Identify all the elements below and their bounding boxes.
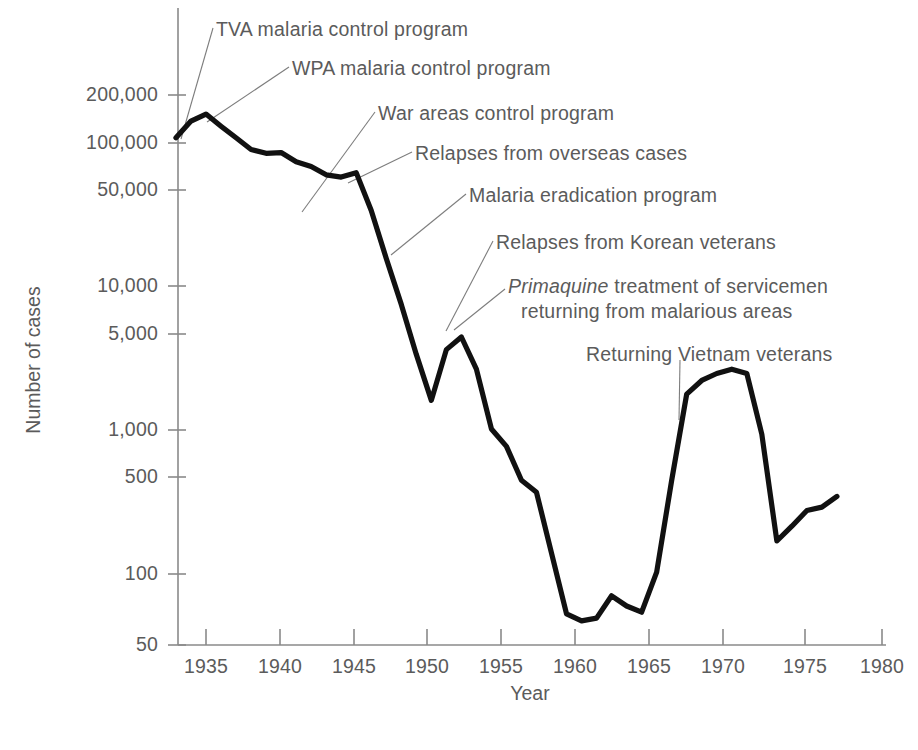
leader-vietnam: [679, 360, 680, 420]
annotation-tva: TVA malaria control program: [216, 18, 468, 40]
x-tick-label-1935: 1935: [184, 655, 228, 677]
leader-eradication: [391, 194, 466, 255]
x-axis-ticks: [206, 629, 882, 645]
x-tick-label-1940: 1940: [258, 655, 302, 677]
chart-figure: 200,000 100,000 50,000 10,000 5,000 1,00…: [0, 0, 918, 750]
annotation-relapses-overseas: Relapses from overseas cases: [415, 142, 687, 164]
y-tick-label-10000: 10,000: [97, 274, 158, 296]
annotation-korean: Relapses from Korean veterans: [496, 231, 776, 253]
leader-wpa: [207, 67, 289, 122]
y-axis-labels: 200,000 100,000 50,000 10,000 5,000 1,00…: [86, 83, 158, 655]
x-tick-label-1945: 1945: [332, 655, 376, 677]
page-edge-artifact: [0, 250, 9, 720]
x-tick-label-1975: 1975: [783, 655, 827, 677]
annotation-vietnam: Returning Vietnam veterans: [586, 343, 833, 365]
x-tick-label-1965: 1965: [627, 655, 671, 677]
annotation-primaquine: Primaquine treatment of servicemen: [508, 275, 828, 297]
annotation-labels: TVA malaria control program WPA malaria …: [216, 18, 833, 365]
leader-tva: [181, 28, 213, 139]
y-tick-label-100: 100: [125, 562, 158, 584]
y-tick-label-50000: 50,000: [97, 178, 158, 200]
annotation-primaquine-line2: returning from malarious areas: [521, 300, 793, 322]
malaria-cases-chart: 200,000 100,000 50,000 10,000 5,000 1,00…: [0, 0, 918, 750]
y-tick-label-1000: 1,000: [108, 418, 158, 440]
leader-primaquine: [454, 289, 505, 330]
annotation-wpa: WPA malaria control program: [292, 57, 551, 79]
y-tick-label-5000: 5,000: [108, 322, 158, 344]
y-tick-label-50: 50: [136, 633, 158, 655]
y-axis-ticks: [168, 95, 186, 645]
x-axis-title: Year: [510, 682, 550, 704]
x-tick-label-1980: 1980: [860, 655, 904, 677]
annotation-primaquine-italic: Primaquine: [508, 275, 609, 297]
x-tick-label-1950: 1950: [405, 655, 449, 677]
y-tick-label-200000: 200,000: [86, 83, 158, 105]
annotation-war-areas: War areas control program: [378, 102, 614, 124]
x-tick-label-1960: 1960: [553, 655, 597, 677]
x-tick-label-1970: 1970: [701, 655, 745, 677]
x-axis-labels: 1935 1940 1945 1950 1955 1960 1965 1970 …: [184, 655, 904, 677]
y-tick-label-100000: 100,000: [86, 131, 158, 153]
annotation-eradication: Malaria eradication program: [469, 184, 717, 206]
annotation-primaquine-rest: treatment of servicemen: [609, 275, 828, 297]
y-tick-label-500: 500: [125, 465, 158, 487]
y-axis-title: Number of cases: [22, 286, 44, 434]
x-tick-label-1955: 1955: [479, 655, 523, 677]
